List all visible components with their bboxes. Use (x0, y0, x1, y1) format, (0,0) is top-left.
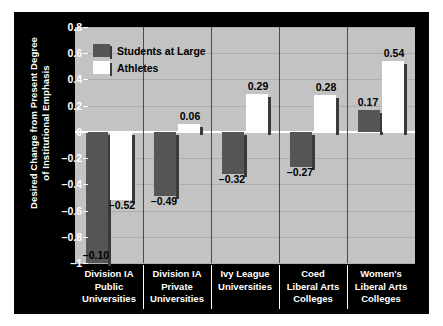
x-axis-category-label: Women'sLiberal ArtsColleges (347, 265, 415, 309)
gridline (75, 27, 415, 28)
bar-athletes (382, 61, 404, 132)
bar-athletes (110, 132, 132, 200)
y-axis-tick-label: 0 (38, 126, 82, 138)
y-axis-tick-label: 0.8 (38, 21, 82, 33)
bar-value-label: –0.27 (277, 166, 323, 178)
gridline (75, 263, 415, 264)
x-label-separator (347, 265, 348, 309)
x-axis-category-line: Colleges (279, 293, 347, 306)
y-axis-tick-label: –0.8 (38, 231, 82, 243)
bar-value-label: –0.32 (209, 173, 255, 185)
x-label-separator (211, 265, 212, 309)
legend-item-athletes: Athletes (93, 61, 206, 74)
category-separator (211, 27, 212, 263)
bar-athletes (314, 95, 336, 132)
bar-value-label: 0.29 (235, 80, 281, 92)
x-axis-category-line: Liberal Arts (347, 281, 415, 294)
x-axis-category-line: Colleges (347, 293, 415, 306)
gridline (75, 237, 415, 238)
y-axis-tick-label: –1 (38, 257, 82, 269)
legend-swatch-students-at-large (93, 44, 110, 57)
x-axis-category-line: Universities (211, 281, 279, 294)
y-axis-tick-mark (83, 79, 88, 80)
y-axis-tick-mark (83, 53, 88, 54)
bar-shadow (404, 64, 407, 135)
bar-athletes (246, 94, 268, 132)
legend-item-students-at-large: Students at Large (93, 44, 206, 57)
bar-students-at-large (358, 110, 380, 132)
x-axis-category-line: Universities (143, 293, 211, 306)
y-axis-tick-mark (83, 106, 88, 107)
bar-shadow (268, 97, 271, 135)
x-axis-category-label: Ivy LeagueUniversities (211, 265, 279, 309)
y-axis-tick-mark (83, 27, 88, 28)
y-axis-tick-mark (83, 132, 88, 133)
chart-legend: Students at Large Athletes (93, 44, 206, 78)
x-axis-category-line: Ivy League (211, 268, 279, 281)
plot-area: –0.10–0.52–0.490.06–0.320.29–0.270.280.1… (75, 27, 415, 263)
y-axis-tick-mark (83, 263, 88, 264)
x-label-separator (279, 265, 280, 309)
bar-chart-figure: Desired Change from Present Degree of In… (14, 12, 429, 314)
y-axis-tick-label: 0.2 (38, 100, 82, 112)
x-axis-category-label: Division IAPrivateUniversities (143, 265, 211, 309)
x-axis-category-line: Universities (75, 293, 143, 306)
x-axis-category-line: Coed (279, 268, 347, 281)
bar-value-label: 0.06 (167, 110, 213, 122)
y-axis-tick-label: 0.4 (38, 73, 82, 85)
category-separator (279, 27, 280, 263)
legend-swatch-athletes (93, 61, 110, 74)
bar-students-at-large (290, 132, 312, 167)
bar-shadow (336, 98, 339, 135)
legend-label-athletes: Athletes (117, 62, 158, 74)
bar-value-label: 0.28 (303, 81, 349, 93)
y-axis-tick-label: –0.2 (38, 152, 82, 164)
bar-students-at-large (154, 132, 176, 196)
legend-label-students-at-large: Students at Large (117, 45, 206, 57)
x-axis-category-line: Women's (347, 268, 415, 281)
bar-value-label: –0.52 (99, 199, 145, 211)
y-axis-tick-mark (83, 237, 88, 238)
bar-shadow (244, 135, 247, 177)
x-axis-category-label: Division IAPublicUniversities (75, 265, 143, 309)
x-axis-category-label: CoedLiberal ArtsColleges (279, 265, 347, 309)
x-axis-category-labels: Division IAPublicUniversitiesDivision IA… (75, 265, 415, 309)
bar-students-at-large (222, 132, 244, 174)
y-axis-tick-mark (83, 184, 88, 185)
y-axis-tick-mark (83, 211, 88, 212)
x-axis-category-line: Division IA (143, 268, 211, 281)
bar-value-label: –0.49 (141, 195, 187, 207)
x-axis-category-line: Public (75, 281, 143, 294)
y-axis-tick-label: 0.6 (38, 47, 82, 59)
bar-shadow (312, 135, 315, 170)
x-axis-category-line: Liberal Arts (279, 281, 347, 294)
bar-shadow (132, 135, 135, 203)
y-axis-tick-mark (83, 158, 88, 159)
bar-shadow (200, 127, 203, 135)
y-axis-tick-label: –0.6 (38, 205, 82, 217)
x-label-separator (143, 265, 144, 309)
y-axis-tick-label: –0.4 (38, 178, 82, 190)
x-axis-category-line: Private (143, 281, 211, 294)
bar-students-at-large (86, 132, 108, 263)
category-separator (347, 27, 348, 263)
bar-athletes (178, 124, 200, 132)
bar-shadow (176, 135, 179, 199)
bar-value-label: 0.54 (371, 47, 417, 59)
x-axis-category-line: Division IA (75, 268, 143, 281)
